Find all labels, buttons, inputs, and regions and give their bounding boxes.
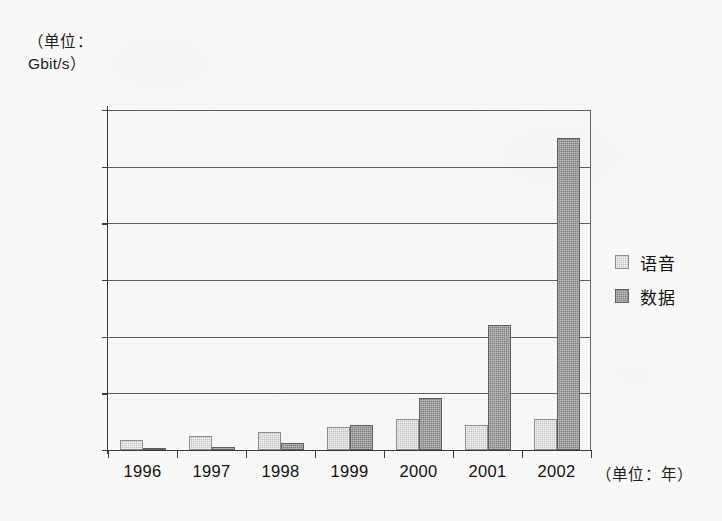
bar: [534, 419, 557, 450]
x-tick-mark: [246, 450, 247, 458]
x-tick-mark: [522, 450, 523, 458]
x-tick-label: 1997: [177, 462, 246, 481]
bar-group: [522, 110, 591, 450]
bar-group: [177, 110, 246, 450]
legend-swatch-icon: [615, 255, 629, 269]
bar: [258, 432, 281, 450]
x-tick-mark: [108, 450, 109, 458]
y-axis-unit-line-1: （单位：: [28, 33, 93, 50]
plot-area: 05 00010 00015 00020 00025 00030 000: [108, 110, 591, 450]
legend-swatch-icon: [615, 289, 629, 303]
bar-chart: （单位：Gbit/s） 05 00010 00015 00020 00025 0…: [0, 0, 722, 521]
bar-group: [453, 110, 522, 450]
bar: [557, 138, 580, 450]
x-axis-unit-label: （单位：年）: [596, 462, 693, 484]
bar: [488, 325, 511, 450]
bar: [281, 443, 304, 450]
legend: 语音数据: [615, 245, 675, 313]
bar: [419, 398, 442, 450]
y-axis-unit-caption: （单位：Gbit/s）: [28, 31, 93, 75]
bar: [120, 440, 143, 450]
x-tick-mark: [591, 450, 592, 458]
x-tick-label: 2001: [453, 462, 522, 481]
legend-item[interactable]: 数据: [615, 279, 675, 313]
x-tick-label: 1998: [246, 462, 315, 481]
x-tick-mark: [453, 450, 454, 458]
bar: [465, 425, 488, 450]
legend-item[interactable]: 语音: [615, 245, 675, 279]
bar-group: [315, 110, 384, 450]
bar: [350, 425, 373, 450]
bar-group: [108, 110, 177, 450]
x-axis-labels: 1996199719981999200020012002: [108, 462, 591, 481]
bar: [189, 436, 212, 450]
x-axis-ticks: [108, 450, 591, 458]
y-axis-unit-line-2: Gbit/s）: [28, 55, 86, 72]
bar-group: [384, 110, 453, 450]
legend-label: 数据: [640, 284, 675, 309]
bar-group: [246, 110, 315, 450]
x-tick-label: 1999: [315, 462, 384, 481]
x-tick-label: 2000: [384, 462, 453, 481]
bar: [327, 427, 350, 450]
x-tick-mark: [177, 450, 178, 458]
x-tick-label: 1996: [108, 462, 177, 481]
x-tick-mark: [384, 450, 385, 458]
bars-layer: [108, 110, 591, 450]
x-tick-label: 2002: [522, 462, 591, 481]
bar: [396, 419, 419, 450]
legend-label: 语音: [640, 250, 675, 275]
x-tick-mark: [315, 450, 316, 458]
